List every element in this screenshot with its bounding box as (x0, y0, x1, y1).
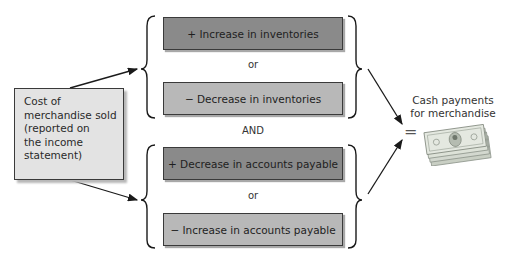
decrease-accounts-payable-box: + Decrease in accounts payable (163, 147, 343, 180)
and-label: AND (223, 125, 283, 136)
result-line: Cash payments (398, 94, 508, 107)
or-label: or (233, 59, 273, 70)
increase-inventories-box: + Increase in inventories (163, 17, 343, 50)
cost-of-merchandise-sold-box: Cost of merchandise sold (reported on th… (14, 88, 124, 180)
source-line: statement) (24, 149, 123, 163)
source-line: Cost of (24, 95, 123, 109)
decrease-inventories-box: − Decrease in inventories (163, 82, 343, 115)
money-stack-icon (423, 124, 495, 166)
or-label: or (233, 190, 273, 201)
cash-payments-label: Cash payments for merchandise (398, 94, 508, 120)
increase-accounts-payable-box: − Increase in accounts payable (163, 213, 343, 246)
source-line: (reported on (24, 122, 123, 136)
source-line: merchandise sold (24, 109, 123, 123)
source-line: the income (24, 136, 123, 150)
result-line: for merchandise (398, 107, 508, 120)
equals-sign: = (404, 122, 417, 141)
